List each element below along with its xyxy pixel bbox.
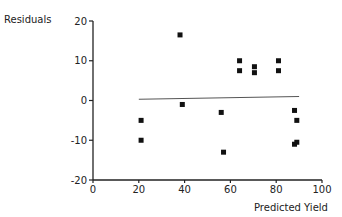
data-point-marker <box>221 150 226 155</box>
y-tick-label: 10 <box>74 55 87 66</box>
x-tick-label: 100 <box>312 184 331 195</box>
data-point-marker <box>276 68 281 73</box>
svg-text:Predicted Yield: Predicted Yield <box>254 202 328 213</box>
x-tick-label: 60 <box>224 184 237 195</box>
x-tick-label: 80 <box>270 184 283 195</box>
reference-line <box>139 97 299 100</box>
residual-scatter-plot: Residuals Predicted Yield 20100-10-20020… <box>0 0 342 217</box>
data-point-marker <box>294 118 299 123</box>
data-point-marker <box>178 32 183 37</box>
svg-text:Residuals: Residuals <box>4 14 51 25</box>
y-tick-label: 0 <box>81 95 87 106</box>
y-tick-label: -20 <box>71 175 87 186</box>
data-point-marker <box>252 64 257 69</box>
data-point-marker <box>139 118 144 123</box>
data-point-marker <box>219 110 224 115</box>
data-point-marker <box>294 140 299 145</box>
x-tick-label: 0 <box>90 184 96 195</box>
y-tick-label: 20 <box>74 16 87 27</box>
data-point-marker <box>237 58 242 63</box>
data-point-marker <box>292 108 297 113</box>
data-point-marker <box>276 58 281 63</box>
data-point-marker <box>180 102 185 107</box>
data-point-marker <box>252 70 257 75</box>
x-axis-title: Predicted Yield <box>254 202 328 213</box>
y-tick-label: -10 <box>71 135 87 146</box>
data-point-marker <box>237 68 242 73</box>
x-tick-label: 20 <box>132 184 145 195</box>
y-axis-title: Residuals <box>4 14 51 25</box>
data-points <box>139 32 300 154</box>
x-tick-label: 40 <box>178 184 191 195</box>
axes: 20100-10-20020406080100 <box>71 16 332 196</box>
data-point-marker <box>139 138 144 143</box>
